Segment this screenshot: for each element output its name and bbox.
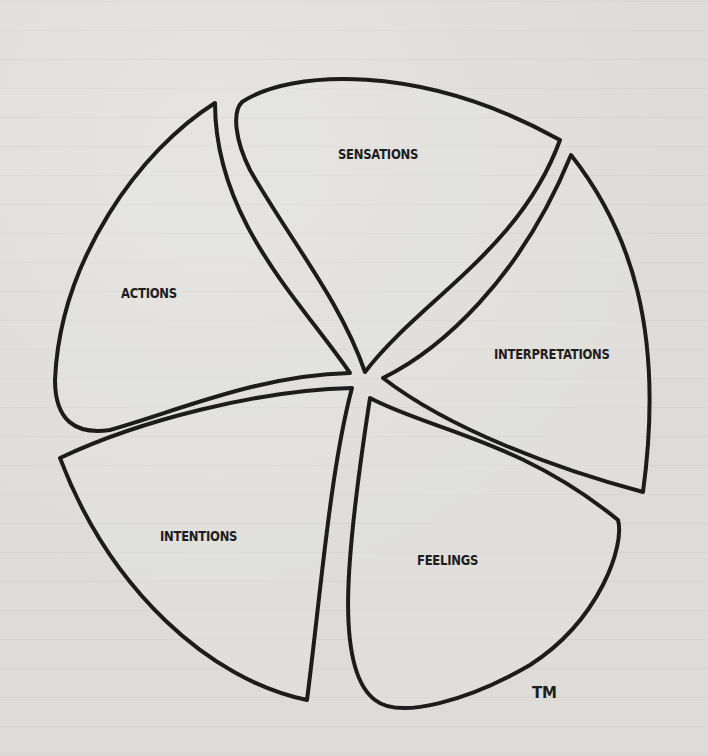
awareness-wheel	[0, 0, 708, 756]
label-interpretations: INTERPRETATIONS	[494, 346, 610, 362]
label-actions: ACTIONS	[121, 285, 177, 301]
label-feelings: FEELINGS	[417, 552, 478, 568]
label-intentions: INTENTIONS	[160, 528, 237, 544]
label-sensations: SENSATIONS	[338, 146, 418, 162]
petal-intentions[interactable]	[60, 388, 352, 700]
trademark-mark: TM	[532, 684, 557, 702]
